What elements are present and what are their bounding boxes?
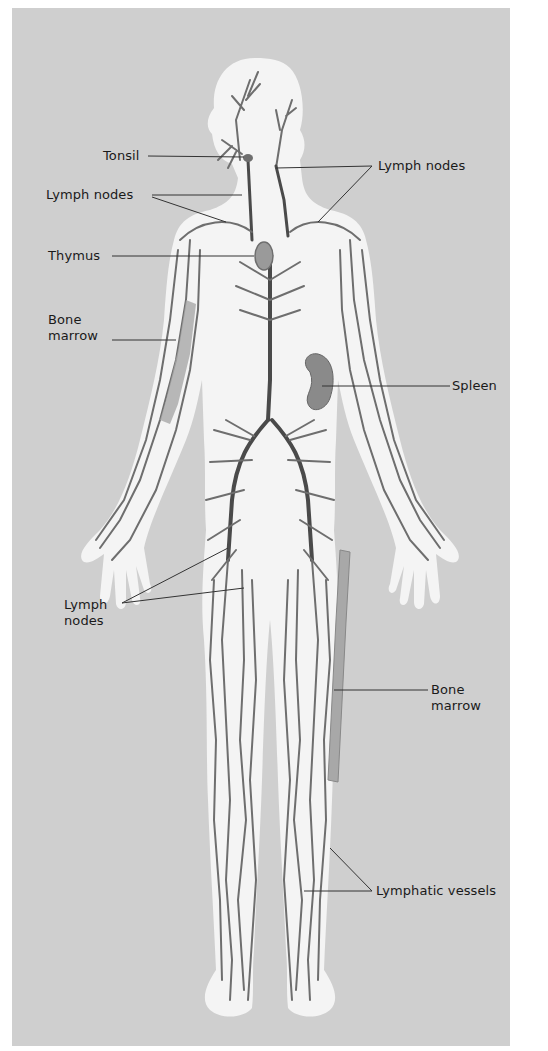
label-lymphatic-vessels: Lymphatic vessels [376,883,496,899]
thymus-shape [255,242,273,270]
label-lymph-nodes-neck-right: Lymph nodes [378,158,465,174]
label-tonsil: Tonsil [103,148,140,164]
label-bone-marrow-femur: Bone marrow [431,682,481,714]
tonsil-shape [243,154,253,162]
label-lymph-nodes-groin: Lymph nodes [64,597,107,629]
label-thymus: Thymus [48,248,100,264]
body-silhouette [81,58,459,1017]
label-lymph-nodes-neck-left: Lymph nodes [46,187,133,203]
label-bone-marrow-arm: Bone marrow [48,312,98,344]
label-spleen: Spleen [452,378,497,394]
